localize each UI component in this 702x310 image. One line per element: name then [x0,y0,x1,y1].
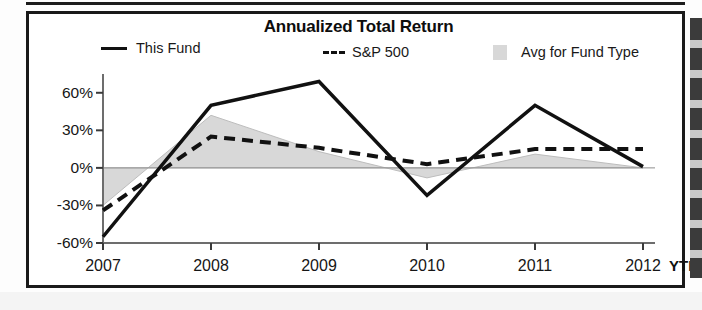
scanned-page: Annualized Total Return This Fund S&P 50… [0,0,702,310]
chart-panel: Annualized Total Return This Fund S&P 50… [26,11,685,288]
x-tick-label-2010: 2010 [409,257,445,275]
x-tick-label-2011: 2011 [518,257,552,275]
chart-svg [29,14,688,291]
x-tick-label-2012: 2012 [625,257,661,275]
x-tick-label-2008: 2008 [193,257,229,275]
plot-area: 60%30%0%-30%-60% 20072008200920102011201… [29,14,688,291]
x-tick-label-2009: 2009 [301,257,337,275]
page-edge-artifact [690,18,702,278]
x-tick-label-2007: 2007 [85,257,121,275]
page-bottom-margin [0,292,702,310]
page-top-rule [26,2,685,5]
series-area-avg-fund-type [103,115,643,205]
